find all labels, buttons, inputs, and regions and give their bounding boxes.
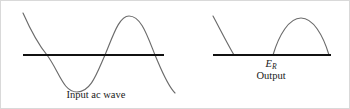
output-partial-hump-curve	[213, 16, 234, 55]
rectifier-figure: Input ac wave ER Output	[0, 0, 350, 109]
right-panel-group	[213, 16, 331, 55]
output-caption: Output	[226, 71, 316, 82]
output-label-group: ER Output	[226, 59, 316, 82]
input-ac-sine-curve	[23, 13, 175, 93]
input-wave-caption: Input ac wave	[36, 90, 156, 101]
left-panel-group	[23, 13, 175, 93]
output-full-hump-curve	[273, 18, 329, 55]
